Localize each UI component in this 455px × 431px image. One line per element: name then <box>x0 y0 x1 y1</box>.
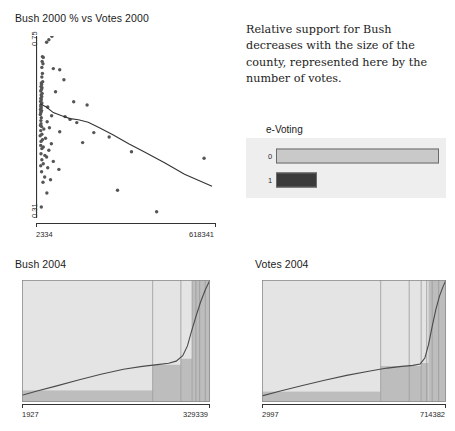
scatter-point <box>46 166 49 169</box>
votes2004-plot-svg <box>262 280 446 402</box>
scatter-point <box>81 141 84 144</box>
scatter-point <box>39 119 42 122</box>
scatter-x-axis-min-label: 2334 <box>36 230 53 239</box>
votes2004-x-axis-max-label: 714382 <box>420 410 445 419</box>
scatter-point <box>39 129 42 132</box>
evoting-chart-panel: e-Voting 0 1 <box>246 124 446 200</box>
scatter-point-group <box>38 36 205 214</box>
scatter-point <box>107 135 110 138</box>
scatter-point <box>58 68 61 71</box>
scatter-point <box>40 75 43 78</box>
votes2004-x-tick-max <box>445 404 446 408</box>
evoting-bar-label-1: 1 <box>268 176 272 185</box>
scatter-point <box>116 189 119 192</box>
scatter-point <box>45 120 48 123</box>
scatter-point <box>44 137 47 140</box>
scatter-point <box>54 90 57 93</box>
density-band <box>421 363 428 402</box>
scatter-point <box>47 38 50 41</box>
scatter-x-tick-max <box>215 223 216 227</box>
density-band <box>153 365 181 402</box>
scatter-point <box>52 67 55 70</box>
scatter-x-axis-max-label: 618341 <box>189 230 214 239</box>
scatter-point <box>92 131 95 134</box>
scatter-point <box>45 155 48 158</box>
scatter-plot-area <box>36 36 216 218</box>
scatter-point <box>42 127 45 130</box>
scatter-point <box>57 168 60 171</box>
scatter-point <box>42 56 45 59</box>
scatter-point <box>50 142 53 145</box>
evoting-chart-title: e-Voting <box>266 124 303 135</box>
scatter-point <box>39 152 42 155</box>
bush2004-plot-area <box>22 280 210 402</box>
scatter-point <box>49 178 52 181</box>
scatter-point <box>41 72 44 75</box>
scatter-point <box>40 66 43 69</box>
scatter-point <box>47 149 50 152</box>
scatter-point <box>202 157 205 160</box>
scatter-point <box>75 121 78 124</box>
density-band <box>262 392 381 402</box>
bush2004-x-tick-max <box>209 404 210 408</box>
evoting-bar-label-0: 0 <box>268 152 272 161</box>
scatter-point <box>58 130 61 133</box>
bush2004-x-axis-line <box>22 404 210 405</box>
density-band <box>192 280 210 402</box>
scatter-point <box>130 150 133 153</box>
scatter-point <box>52 160 55 163</box>
evoting-bar-row-1[interactable]: 1 <box>246 170 446 190</box>
scatter-x-tick-min <box>36 223 37 227</box>
votes2004-x-axis-min-label: 2997 <box>262 410 279 419</box>
scatter-point <box>72 100 75 103</box>
scatter-point <box>43 175 46 178</box>
votes2004-chart-panel: Votes 2004 2997 714382 <box>240 252 455 431</box>
evoting-bar-0[interactable] <box>276 149 439 164</box>
bush2004-x-axis-max-label: 329339 <box>183 410 208 419</box>
scatter-point <box>155 210 158 213</box>
scatter-chart-panel: Bush 2000 % vs Votes 2000 0.75 0.31 2334… <box>0 0 240 248</box>
bush2004-chart-panel: Bush 2004 1927 329339 <box>0 252 232 431</box>
bush2004-x-axis-min-label: 1927 <box>22 410 39 419</box>
scatter-point <box>85 103 88 106</box>
votes2004-x-tick-min <box>262 404 263 408</box>
bush2004-x-tick-min <box>22 404 23 408</box>
scatter-point <box>41 181 44 184</box>
bush2004-chart-title: Bush 2004 <box>15 258 66 270</box>
votes2004-chart-title: Votes 2004 <box>255 258 309 270</box>
scatter-point <box>40 147 43 150</box>
scatter-x-axis-line <box>36 223 216 224</box>
scatter-point <box>39 164 42 167</box>
votes2004-x-axis-line <box>262 404 446 405</box>
scatter-point <box>39 140 42 143</box>
density-band <box>381 366 421 402</box>
scatter-point <box>40 205 43 208</box>
density-band <box>429 280 446 402</box>
evoting-bar-1[interactable] <box>276 173 317 188</box>
density-band <box>22 390 153 402</box>
evoting-plot-area: 0 1 <box>246 138 446 198</box>
scatter-point <box>45 191 48 194</box>
scatter-plot-svg <box>36 36 216 218</box>
description-text: Relative support for Bush decreases with… <box>246 22 436 87</box>
scatter-chart-title: Bush 2000 % vs Votes 2000 <box>15 12 149 24</box>
evoting-bar-row-0[interactable]: 0 <box>246 146 446 166</box>
scatter-point <box>40 170 43 173</box>
scatter-point <box>38 134 41 137</box>
scatter-point <box>41 62 44 65</box>
votes2004-plot-area <box>262 280 446 402</box>
density-band <box>181 359 192 402</box>
scatter-point <box>40 158 43 161</box>
scatter-point <box>39 113 42 116</box>
scatter-point <box>50 36 53 38</box>
scatter-point <box>62 78 65 81</box>
scatter-point <box>50 114 53 117</box>
scatter-point <box>48 126 51 129</box>
bush2004-plot-svg <box>22 280 210 402</box>
